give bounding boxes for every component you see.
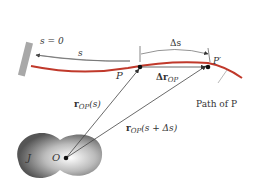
origin-point xyxy=(64,156,69,161)
label-path-of-P: Path of P xyxy=(196,99,237,109)
point-P xyxy=(138,65,143,70)
label-s: s xyxy=(78,48,83,58)
label-P: P xyxy=(115,70,123,81)
label-r-OP-s: rOP(s) xyxy=(74,99,101,111)
arc-length-s-arrow xyxy=(36,55,130,61)
label-s-zero: s = 0 xyxy=(40,36,64,46)
delta-s-arrow xyxy=(141,50,208,55)
label-P-prime: P′ xyxy=(212,56,221,66)
label-delta-r: ΔrOP xyxy=(156,72,178,84)
r-OP-s-vector xyxy=(66,69,139,158)
label-r-OP-s-ds: rOP(s + Δs) xyxy=(126,123,178,135)
label-delta-s: Δs xyxy=(170,38,181,48)
wall-anchor xyxy=(18,42,33,77)
point-P-prime xyxy=(206,65,211,70)
kinematics-diagram: s = 0 s Δs P P′ ΔrOP rOP(s) rOP(s + Δs) … xyxy=(0,0,255,192)
label-frame: J xyxy=(25,152,32,163)
label-origin: O xyxy=(52,152,60,163)
path-of-P-curve xyxy=(31,62,242,78)
r-OP-s-ds-vector xyxy=(66,66,206,158)
